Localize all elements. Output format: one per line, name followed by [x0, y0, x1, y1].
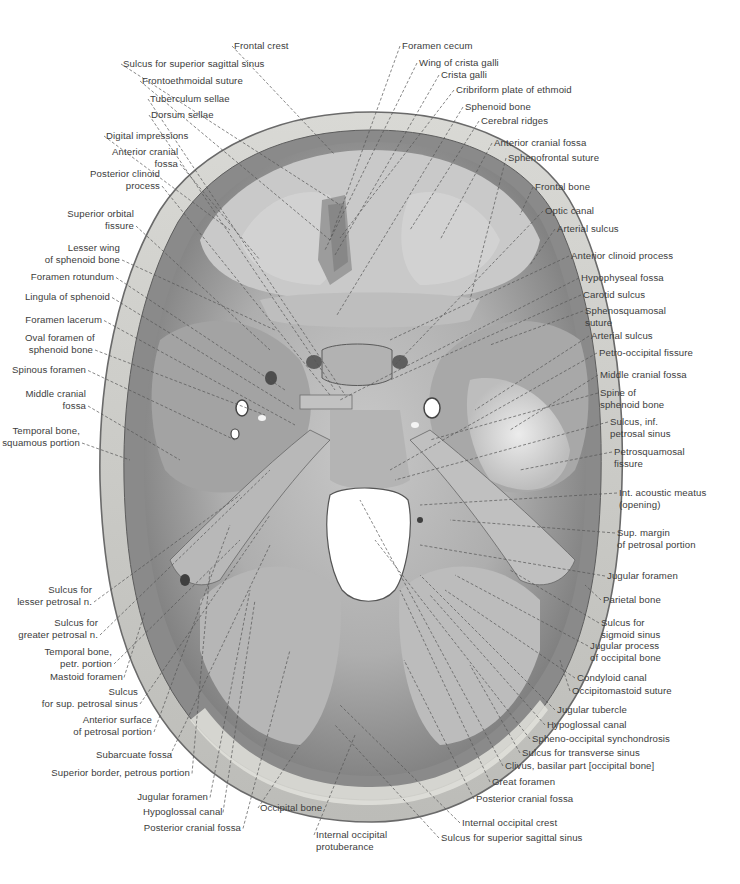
label-text: Anterior surface [72, 714, 152, 726]
label-jugular-process-occipital: Jugular processof occipital bone [590, 640, 661, 663]
label-text: Occipitomastoid suture [572, 685, 672, 697]
label-text: Mastoid foramen [50, 671, 122, 683]
label-condyloid-canal: Condyloid canal [577, 672, 647, 684]
label-crista-galli: Crista galli [441, 69, 487, 81]
label-petrosquamosal-fissure: Petrosquamosalfissure [614, 446, 685, 469]
label-temporal-bone-petr: Temporal bone,petr. portion [44, 646, 112, 669]
label-text: of sphenoid bone [42, 254, 120, 266]
skull-base-illustration: Frontal crestSulcus for superior sagitta… [0, 0, 740, 884]
label-sulcus-sup-sagittal-sinus-bottom: Sulcus for superior sagittal sinus [441, 832, 583, 844]
label-hypophyseal-fossa: Hypophyseal fossa [581, 272, 664, 284]
label-posterior-clinoid-process: Posterior clinoidprocess [90, 168, 160, 191]
label-anterior-clinoid-process: Anterior clinoid process [571, 250, 673, 262]
label-mastoid-foramen: Mastoid foramen [50, 671, 122, 683]
label-text: Sphenosquamosal [585, 305, 666, 317]
label-text: of petrosal portion [72, 726, 152, 738]
label-text: Wing of crista galli [419, 57, 499, 69]
label-text: process [90, 180, 160, 192]
label-lingula-of-sphenoid: Lingula of sphenoid [22, 291, 110, 303]
label-text: Internal occipital [316, 829, 387, 841]
label-jugular-tubercle: Jugular tubercle [557, 704, 627, 716]
label-text: (opening) [619, 499, 706, 511]
label-text: squamous portion [0, 437, 80, 449]
label-text: Spinous foramen [10, 364, 86, 376]
label-text: Jugular foramen [136, 791, 208, 803]
label-sulcus-transverse-sinus: Sulcus for transverse sinus [522, 747, 640, 759]
label-text: Digital impressions [106, 130, 188, 142]
label-text: Frontal crest [234, 40, 289, 52]
label-text: fissure [64, 220, 134, 232]
label-text: Superior orbital [64, 208, 134, 220]
label-carotid-sulcus: Carotid sulcus [583, 289, 645, 301]
label-oval-foramen: Oval foramen ofsphenoid bone [25, 332, 93, 355]
label-text: Middle cranial [22, 388, 86, 400]
label-hypoglossal-canal-right: Hypoglossal canal [547, 719, 627, 731]
label-text: Sulcus, inf. [610, 416, 671, 428]
label-frontal-bone: Frontal bone [535, 181, 590, 193]
label-spheno-occipital-synchondrosis: Spheno-occipital synchondrosis [532, 733, 670, 745]
label-sulcus-sigmoid-sinus: Sulcus forsigmoid sinus [601, 617, 660, 640]
label-int-acoustic-meatus: Int. acoustic meatus(opening) [619, 487, 706, 510]
label-text: Hypoglossal canal [143, 806, 221, 818]
label-text: for sup. petrosal sinus [40, 698, 138, 710]
label-text: lesser petrosal n. [14, 596, 92, 608]
label-text: Frontal bone [535, 181, 590, 193]
label-foramen-rotundum: Foramen rotundum [30, 271, 114, 283]
label-text: Foramen lacerum [24, 314, 102, 326]
label-foramen-lacerum: Foramen lacerum [24, 314, 102, 326]
label-sulcus-sup-sagittal-sinus-top: Sulcus for superior sagittal sinus [123, 58, 265, 70]
label-text: Great foramen [492, 776, 555, 788]
label-text: Jugular tubercle [557, 704, 627, 716]
label-spine-of-sphenoid: Spine ofsphenoid bone [600, 387, 664, 410]
label-foramen-cecum: Foramen cecum [402, 40, 473, 52]
label-text: sigmoid sinus [601, 629, 660, 641]
label-text: greater petrosal n. [18, 629, 98, 641]
foramen-magnum-shape [327, 488, 411, 601]
label-subarcuate-fossa: Subarcuate fossa [96, 749, 168, 761]
label-wing-of-crista-galli: Wing of crista galli [419, 57, 499, 69]
label-text: Internal occipital crest [462, 817, 557, 829]
label-frontal-crest: Frontal crest [234, 40, 289, 52]
label-text: Tuberculum sellae [150, 93, 230, 105]
label-occipitomastoid-suture: Occipitomastoid suture [572, 685, 672, 697]
label-text: Spine of [600, 387, 664, 399]
label-text: Jugular process [590, 640, 661, 652]
label-text: suture [585, 317, 666, 329]
label-text: Arterial sulcus [557, 223, 619, 235]
label-jugular-foramen-right: Jugular foramen [607, 570, 678, 582]
label-cribriform-plate: Cribriform plate of ethmoid [456, 84, 572, 96]
label-text: Sulcus for superior sagittal sinus [123, 58, 265, 70]
label-text: Sulcus for [601, 617, 660, 629]
label-frontoethmoidal-suture: Frontoethmoidal suture [142, 75, 243, 87]
label-arterial-sulcus-top: Arterial sulcus [557, 223, 619, 235]
label-tuberculum-sellae: Tuberculum sellae [150, 93, 230, 105]
label-text: Posterior cranial fossa [143, 822, 241, 834]
label-text: Sulcus for [14, 584, 92, 596]
label-text: Frontoethmoidal suture [142, 75, 243, 87]
label-anterior-cranial-fossa-right: Anterior cranial fossa [494, 137, 586, 149]
label-digital-impressions: Digital impressions [106, 130, 188, 142]
label-internal-occipital-crest: Internal occipital crest [462, 817, 557, 829]
label-superior-border-petrous: Superior border, petrous portion [48, 767, 190, 779]
label-occipital-bone: Occipital bone [260, 802, 322, 814]
label-text: Jugular foramen [607, 570, 678, 582]
label-temporal-bone-squamous: Temporal bone,squamous portion [0, 425, 80, 448]
label-text: Middle cranial fossa [600, 369, 687, 381]
label-text: Int. acoustic meatus [619, 487, 706, 499]
label-anterior-surface-petrosal: Anterior surfaceof petrosal portion [72, 714, 152, 737]
label-text: Foramen cecum [402, 40, 473, 52]
label-sulcus-greater-petrosal: Sulcus forgreater petrosal n. [18, 617, 98, 640]
label-middle-cranial-fossa-left: Middle cranialfossa [22, 388, 86, 411]
label-text: protuberance [316, 841, 387, 853]
label-text: Superior border, petrous portion [48, 767, 190, 779]
label-text: Lingula of sphenoid [22, 291, 110, 303]
label-text: Cribriform plate of ethmoid [456, 84, 572, 96]
label-text: fossa [22, 400, 86, 412]
label-petro-occipital-fissure: Petro-occipital fissure [599, 347, 693, 359]
label-text: Sphenoid bone [465, 101, 531, 113]
label-cerebral-ridges: Cerebral ridges [481, 115, 548, 127]
label-text: Carotid sulcus [583, 289, 645, 301]
label-text: Anterior clinoid process [571, 250, 673, 262]
label-text: Temporal bone, [0, 425, 80, 437]
label-text: Temporal bone, [44, 646, 112, 658]
